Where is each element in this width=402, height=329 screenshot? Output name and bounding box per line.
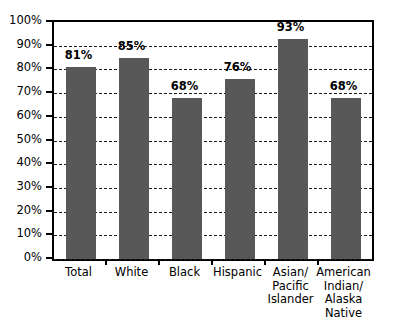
y-axis-tick [46,162,52,164]
bar-value-label: 93% [261,21,321,33]
gridline [54,188,372,189]
y-axis-label: 30% [16,180,42,192]
y-axis-label: 60% [16,109,42,121]
bar-value-label: 76% [208,61,268,73]
y-axis-label: 70% [16,85,42,97]
bar-value-label: 81% [49,49,109,61]
gridline [54,212,372,213]
y-axis-label: 0% [24,251,42,263]
bar [331,98,361,259]
bar-value-label: 68% [155,80,215,92]
y-axis-tick [46,186,52,188]
y-axis-label: 80% [16,61,42,73]
bar [66,67,96,259]
gridline [54,164,372,165]
gridline [54,235,372,236]
y-axis-tick [46,44,52,46]
y-axis-tick [46,115,52,117]
y-axis-label: 40% [16,156,42,168]
x-axis-tick [105,259,107,265]
gridline [54,141,372,142]
bar-value-label: 68% [314,80,374,92]
y-axis-label: 50% [16,133,42,145]
bar [225,79,255,259]
gridline [54,117,372,118]
y-axis-tick [46,210,52,212]
bar-chart: 0%10%20%30%40%50%60%70%80%90%100%81%Tota… [0,0,402,329]
bar [172,98,202,259]
x-axis-tick [264,259,266,265]
bar [119,58,149,259]
y-axis-label: 20% [16,204,42,216]
y-axis-label: 90% [16,38,42,50]
gridline [54,93,372,94]
y-axis-label: 100% [9,14,42,26]
bar-value-label: 85% [102,40,162,52]
y-axis-label: 10% [16,227,42,239]
y-axis-tick [46,139,52,141]
y-axis-tick [46,67,52,69]
y-axis-tick [46,233,52,235]
x-axis-tick [158,259,160,265]
y-axis-tick [46,257,52,259]
y-axis-tick [46,91,52,93]
gridline [54,259,372,260]
x-axis-category-label: American Indian/ Alaska Native [311,266,377,320]
y-axis-tick [46,20,52,22]
bar [278,39,308,259]
